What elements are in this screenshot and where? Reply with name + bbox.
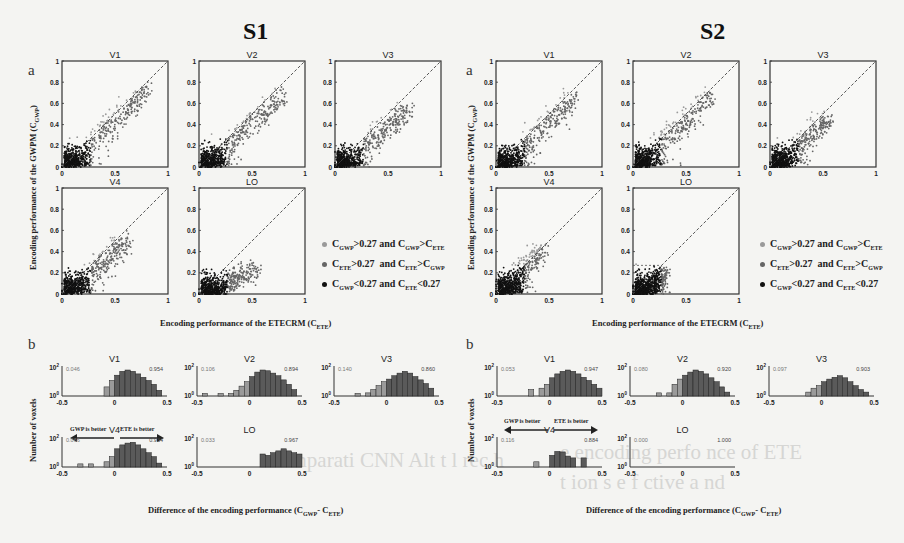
histogram-subplot-v1: V1102100-0.500.50.0460.954 <box>49 354 172 406</box>
svg-text:0.080: 0.080 <box>634 366 648 372</box>
svg-text:0.6: 0.6 <box>50 227 59 234</box>
svg-text:0.2: 0.2 <box>50 269 59 276</box>
svg-text:-0.5: -0.5 <box>763 399 775 406</box>
histogram-subplot-lo: LO102100-0.500.50.0330.967 <box>184 425 307 477</box>
histogram-subplot-v1: V1102100-0.500.50.0530.947 <box>484 354 607 406</box>
scatter-subplot-v1: V100.20.40.60.8100.51 <box>50 50 170 177</box>
svg-text:0.2: 0.2 <box>50 142 59 149</box>
svg-text:0.8: 0.8 <box>621 206 630 213</box>
svg-text:0.5: 0.5 <box>730 399 739 406</box>
svg-text:0.4: 0.4 <box>621 121 630 128</box>
svg-text:-0.5: -0.5 <box>56 399 68 406</box>
scatter-subplot-v2: V200.20.40.60.8100.51 <box>187 50 307 177</box>
svg-text:0: 0 <box>631 297 635 304</box>
svg-text:102: 102 <box>49 434 59 442</box>
svg-text:1: 1 <box>489 185 493 192</box>
histogram-subplot-v2: V2102100-0.500.50.1060.894 <box>184 354 307 406</box>
svg-text:0.6: 0.6 <box>621 227 630 234</box>
svg-text:LO: LO <box>246 177 258 187</box>
svg-text:0.4: 0.4 <box>50 248 59 255</box>
svg-text:1: 1 <box>763 58 767 65</box>
svg-text:0: 0 <box>548 470 552 477</box>
svg-text:0.2: 0.2 <box>323 142 332 149</box>
svg-text:0: 0 <box>60 170 64 177</box>
svg-text:100: 100 <box>49 462 59 470</box>
svg-text:-0.5: -0.5 <box>191 470 203 477</box>
svg-text:0.000: 0.000 <box>634 437 648 443</box>
svg-text:0: 0 <box>626 164 630 171</box>
svg-text:0: 0 <box>113 470 117 477</box>
svg-text:V1: V1 <box>544 354 555 364</box>
svg-text:0.033: 0.033 <box>201 437 215 443</box>
svg-text:100: 100 <box>49 391 59 399</box>
svg-text:0.947: 0.947 <box>584 366 598 372</box>
svg-text:0.5: 0.5 <box>597 470 606 477</box>
histogram-subplot-v4: V4102100-0.500.50.1160.884 <box>484 425 607 477</box>
svg-text:0: 0 <box>197 297 201 304</box>
svg-text:102: 102 <box>484 434 494 442</box>
svg-text:0: 0 <box>197 170 201 177</box>
svg-text:0: 0 <box>494 297 498 304</box>
svg-text:V4: V4 <box>109 425 120 435</box>
svg-text:1: 1 <box>55 58 59 65</box>
svg-text:0: 0 <box>248 399 252 406</box>
svg-text:0.4: 0.4 <box>50 121 59 128</box>
svg-text:100: 100 <box>484 391 494 399</box>
svg-text:0.8: 0.8 <box>484 206 493 213</box>
svg-text:V3: V3 <box>382 50 393 60</box>
svg-text:0: 0 <box>60 297 64 304</box>
svg-text:0: 0 <box>55 291 59 298</box>
svg-text:0.8: 0.8 <box>50 79 59 86</box>
svg-text:102: 102 <box>484 363 494 371</box>
svg-text:V3: V3 <box>381 354 392 364</box>
svg-text:0.8: 0.8 <box>484 79 493 86</box>
svg-text:V1: V1 <box>543 50 554 60</box>
scatter-subplot-lo: LO00.20.40.60.8100.51 <box>621 177 741 304</box>
svg-text:0.894: 0.894 <box>284 366 298 372</box>
svg-text:0.097: 0.097 <box>773 366 787 372</box>
svg-text:0.2: 0.2 <box>621 269 630 276</box>
svg-text:0.5: 0.5 <box>383 170 392 177</box>
svg-text:0.046: 0.046 <box>66 366 80 372</box>
svg-text:0.8: 0.8 <box>50 206 59 213</box>
svg-text:0: 0 <box>55 164 59 171</box>
svg-text:0.934: 0.934 <box>149 437 163 443</box>
svg-text:0.5: 0.5 <box>434 399 443 406</box>
svg-text:0.5: 0.5 <box>544 297 553 304</box>
svg-text:0.6: 0.6 <box>621 100 630 107</box>
svg-text:0.5: 0.5 <box>297 470 306 477</box>
histogram-subplot-v3: V3102100-0.500.50.0970.903 <box>756 354 879 406</box>
svg-text:1: 1 <box>874 170 878 177</box>
scatter-subplot-v1: V100.20.40.60.8100.51 <box>484 50 604 177</box>
scatter-subplot-v4: V400.20.40.60.8100.51 <box>484 177 604 304</box>
svg-text:0.5: 0.5 <box>869 399 878 406</box>
svg-text:0.4: 0.4 <box>484 248 493 255</box>
svg-text:-0.5: -0.5 <box>624 470 636 477</box>
svg-text:0.920: 0.920 <box>717 366 731 372</box>
svg-text:0.4: 0.4 <box>323 121 332 128</box>
svg-text:0.6: 0.6 <box>50 100 59 107</box>
scatter-subplot-v4: V400.20.40.60.8100.51 <box>50 177 170 304</box>
svg-text:1: 1 <box>192 185 196 192</box>
svg-text:LO: LO <box>676 425 688 435</box>
histogram-subplot-v4: V4102100-0.500.50.0660.934 <box>49 425 172 477</box>
svg-text:0.053: 0.053 <box>501 366 515 372</box>
svg-text:102: 102 <box>617 434 627 442</box>
svg-text:0.5: 0.5 <box>730 470 739 477</box>
svg-text:100: 100 <box>756 391 766 399</box>
svg-text:0.6: 0.6 <box>484 100 493 107</box>
svg-text:0.8: 0.8 <box>758 79 767 86</box>
svg-text:100: 100 <box>184 391 194 399</box>
svg-text:0.2: 0.2 <box>484 142 493 149</box>
svg-text:0.8: 0.8 <box>187 79 196 86</box>
svg-text:0.967: 0.967 <box>284 437 298 443</box>
svg-text:-0.5: -0.5 <box>56 470 68 477</box>
svg-text:V4: V4 <box>109 177 120 187</box>
svg-text:-0.5: -0.5 <box>491 399 503 406</box>
svg-text:0.954: 0.954 <box>149 366 163 372</box>
svg-text:0.2: 0.2 <box>621 142 630 149</box>
scatter-subplot-lo: LO00.20.40.60.8100.51 <box>187 177 307 304</box>
svg-text:0.140: 0.140 <box>338 366 352 372</box>
svg-text:0: 0 <box>631 170 635 177</box>
svg-text:0.2: 0.2 <box>758 142 767 149</box>
